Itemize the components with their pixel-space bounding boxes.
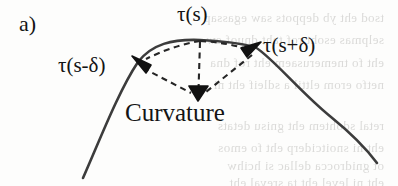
dashed-chord-left	[146, 41, 200, 59]
dashed-leg-left	[143, 68, 191, 93]
label-tangent-at-s-plus-delta: τ(s+δ)	[263, 35, 315, 56]
curve-diagram-svg	[0, 0, 398, 186]
panel-label: a)	[19, 13, 36, 35]
label-tangent-at-s-minus-delta: τ(s-δ)	[58, 55, 106, 76]
label-curvature: Curvature	[125, 100, 225, 125]
dashed-leg-right	[206, 55, 252, 92]
dashed-curvature-axis	[199, 42, 201, 90]
curvature-figure-panel: tsod eht yb deppots saw egassapselpmas e…	[0, 0, 398, 186]
label-tangent-at-s: τ(s)	[177, 4, 208, 25]
